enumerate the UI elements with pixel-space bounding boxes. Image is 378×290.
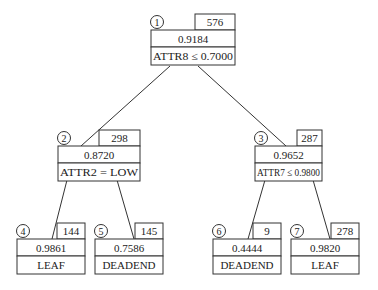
- node-value: 0.7586: [114, 242, 145, 254]
- node-id: 2: [62, 133, 67, 144]
- node-id: 7: [295, 226, 300, 237]
- node-count: 144: [63, 225, 80, 237]
- node-count: 287: [301, 132, 318, 144]
- tree-node-6: 960.4444DEADEND: [213, 223, 282, 274]
- node-label: ATTR7 ≤ 0.9800: [257, 166, 320, 178]
- tree-node-2: 29820.8720ATTR2 = LOW: [58, 130, 141, 181]
- node-id: 4: [21, 226, 26, 237]
- node-value: 0.9652: [273, 149, 303, 161]
- tree-node-1: 57610.9184ATTR8 ≤ 0.7000: [151, 14, 236, 65]
- node-value: 0.9861: [36, 242, 66, 254]
- node-count: 576: [207, 16, 224, 28]
- node-count: 145: [141, 225, 158, 237]
- node-id: 1: [155, 17, 160, 28]
- node-id: 3: [259, 133, 264, 144]
- node-count: 278: [337, 225, 354, 237]
- tree-node-7: 27870.9820LEAF: [291, 223, 360, 274]
- node-count: 298: [111, 132, 128, 144]
- node-label: DEADEND: [102, 259, 155, 271]
- node-label: ATTR8 ≤ 0.7000: [153, 50, 234, 62]
- tree-nodes: 57610.9184ATTR8 ≤ 0.700029820.8720ATTR2 …: [17, 14, 360, 274]
- edge-3-7: [313, 180, 330, 239]
- node-label: LEAF: [37, 259, 65, 271]
- node-label: LEAF: [311, 259, 339, 271]
- node-value: 0.8720: [84, 149, 115, 161]
- tree-node-5: 14550.7586DEADEND: [95, 223, 164, 274]
- tree-node-4: 14440.9861LEAF: [17, 223, 86, 274]
- node-label: ATTR2 = LOW: [60, 166, 139, 178]
- edge-1-3: [198, 66, 286, 146]
- node-value: 0.9184: [178, 33, 209, 45]
- node-value: 0.4444: [232, 242, 263, 254]
- node-id: 6: [217, 226, 222, 237]
- decision-tree: 57610.9184ATTR8 ≤ 0.700029820.8720ATTR2 …: [0, 0, 378, 290]
- tree-node-3: 28730.9652ATTR7 ≤ 0.9800: [255, 130, 323, 181]
- edge-2-5: [117, 180, 134, 239]
- node-label: DEADEND: [220, 259, 273, 271]
- node-count: 9: [264, 225, 270, 237]
- node-value: 0.9820: [310, 242, 341, 254]
- node-id: 5: [99, 226, 104, 237]
